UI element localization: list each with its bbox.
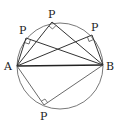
segment-p1-b <box>26 38 103 65</box>
right-angle-mark-p2 <box>49 26 56 30</box>
label-a: A <box>3 60 13 73</box>
right-angle-mark-p4 <box>42 99 48 103</box>
label-p2: P <box>48 8 56 21</box>
segment-a-p3 <box>17 35 92 66</box>
segment-p4-b <box>44 65 103 105</box>
label-b: B <box>106 60 114 73</box>
label-p4: P <box>40 110 48 123</box>
thales-diagram: A B P P P P <box>0 0 122 127</box>
segment-a-p4 <box>17 66 44 105</box>
label-p3: P <box>91 21 99 34</box>
diameter-ab <box>17 65 103 66</box>
label-p1: P <box>19 24 27 37</box>
